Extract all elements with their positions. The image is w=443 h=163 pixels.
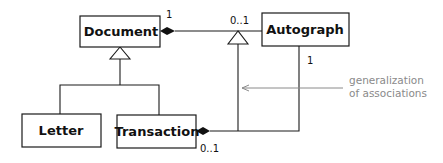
class-autograph-label: Autograph xyxy=(266,22,344,37)
class-letter[interactable]: Letter xyxy=(22,114,101,147)
class-letter-label: Letter xyxy=(39,123,84,138)
generalization-triangle-document xyxy=(110,47,130,59)
annotation-line-2: of associations xyxy=(349,87,427,99)
class-transaction[interactable]: Transaction xyxy=(115,115,200,148)
generalization-branches xyxy=(60,85,159,115)
multiplicity-transaction: 0..1 xyxy=(200,143,219,154)
class-document-label: Document xyxy=(84,24,159,39)
multiplicity-autograph-down: 1 xyxy=(307,55,313,66)
multiplicity-autograph-left: 0..1 xyxy=(230,15,249,26)
annotation-line-1: generalization xyxy=(349,74,424,86)
class-transaction-label: Transaction xyxy=(115,124,200,139)
class-document[interactable]: Document xyxy=(80,16,160,47)
class-autograph[interactable]: Autograph xyxy=(262,13,349,46)
multiplicity-document: 1 xyxy=(166,9,172,20)
uml-class-diagram: Document Autograph Letter Transaction 1 … xyxy=(0,0,443,163)
composition-diamond-document xyxy=(160,27,175,35)
generalization-triangle-association xyxy=(228,31,248,44)
